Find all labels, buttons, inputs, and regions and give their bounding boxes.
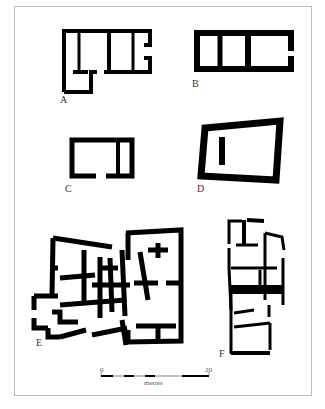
plan-a bbox=[64, 31, 150, 92]
plans-drawing bbox=[0, 0, 325, 409]
scale-end-label: 20 bbox=[205, 366, 212, 374]
plan-e bbox=[34, 230, 181, 345]
scale-bar bbox=[101, 372, 209, 377]
scale-unit-label: metres bbox=[144, 379, 163, 387]
plan-d bbox=[201, 121, 280, 180]
plan-label-a: A bbox=[60, 94, 67, 105]
plan-b bbox=[197, 33, 291, 69]
plan-label-e: E bbox=[36, 337, 42, 348]
plan-label-b: B bbox=[192, 78, 199, 89]
plan-label-f: F bbox=[219, 348, 225, 359]
scale-start-label: 0 bbox=[100, 366, 104, 374]
plan-label-c: C bbox=[65, 183, 72, 194]
plan-f bbox=[229, 220, 284, 354]
plan-c bbox=[72, 140, 132, 176]
plan-label-d: D bbox=[197, 183, 204, 194]
